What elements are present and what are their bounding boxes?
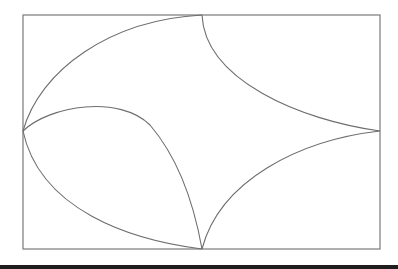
right-bottom-arc — [202, 131, 380, 249]
bottom-dark-bar — [0, 265, 398, 269]
diagram-figure — [0, 0, 398, 269]
bounding-frame — [23, 15, 380, 249]
figure-description: Curvilinear quadrilateral inscribed in a… — [0, 0, 49, 1]
curved-quadrilateral-diagram — [0, 0, 398, 269]
top-right-arc — [202, 15, 380, 131]
outer-top-left-arc — [23, 15, 202, 131]
outer-bottom-left-arc — [23, 131, 202, 249]
inner-lobe-arc — [23, 107, 202, 249]
